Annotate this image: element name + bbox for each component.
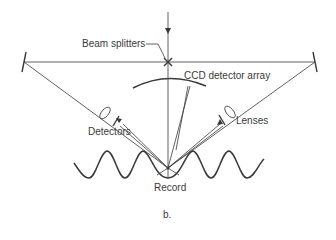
ccd-ray: [168, 86, 190, 168]
detectors-label: Detectors: [88, 127, 131, 137]
figure-caption: b.: [163, 210, 171, 220]
left-lens-icon: [98, 105, 112, 120]
record-normal-right: [168, 168, 179, 175]
ccd-pointer: [176, 86, 188, 150]
right-reflected-ray-1: [168, 124, 220, 168]
beam-splitters-pointer: [146, 44, 165, 58]
record-normal-left: [157, 168, 168, 175]
record-focal-point: [167, 167, 170, 170]
lenses-label: Lenses: [236, 116, 268, 126]
beam-arrow-icon: [165, 28, 171, 34]
ccd-detector-array-label: CCD detector array: [184, 71, 270, 81]
beam-splitters-label: Beam splitters: [82, 39, 145, 49]
record-label: Record: [154, 183, 186, 193]
